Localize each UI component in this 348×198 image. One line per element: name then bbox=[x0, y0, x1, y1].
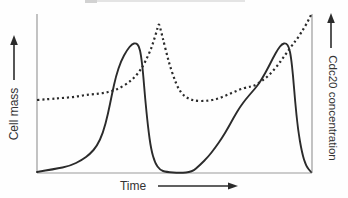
cdc20-axis-arrow-icon bbox=[327, 13, 335, 48]
plot-canvas bbox=[0, 0, 348, 198]
right-axis-label: Cdc20 concentration bbox=[327, 55, 339, 160]
cdc20-curve bbox=[37, 15, 311, 101]
cell-mass-curve bbox=[37, 43, 311, 172]
cell-cycle-chart: Cell mass Cdc20 concentration Time bbox=[0, 0, 348, 198]
time-axis-arrow-icon bbox=[158, 182, 238, 189]
left-axis-label: Cell mass bbox=[7, 88, 21, 141]
x-axis-label: Time bbox=[120, 179, 146, 193]
cell-mass-axis-arrow-icon bbox=[10, 35, 18, 80]
